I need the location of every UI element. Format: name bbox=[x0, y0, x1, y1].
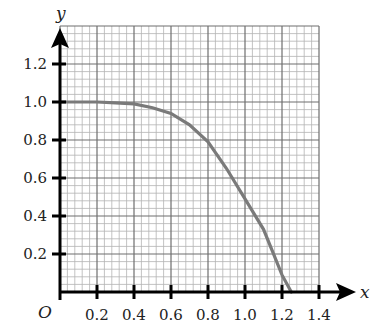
tick-labels: 0.20.40.60.81.01.21.40.20.40.60.81.01.2 bbox=[23, 55, 331, 324]
y-tick-label: 1.0 bbox=[23, 93, 47, 111]
y-tick-label: 0.2 bbox=[23, 245, 47, 263]
grid bbox=[60, 26, 319, 292]
x-tick-label: 1.0 bbox=[233, 306, 257, 324]
y-tick-label: 0.6 bbox=[23, 169, 47, 187]
origin-label: O bbox=[38, 302, 52, 322]
x-tick-label: 0.6 bbox=[159, 306, 183, 324]
y-tick-label: 0.8 bbox=[23, 131, 47, 149]
x-axis-label: x bbox=[360, 282, 370, 302]
x-tick-label: 0.2 bbox=[85, 306, 109, 324]
x-tick-label: 0.8 bbox=[196, 306, 220, 324]
y-tick-label: 1.2 bbox=[23, 55, 47, 73]
x-tick-label: 1.4 bbox=[307, 306, 331, 324]
y-tick-label: 0.4 bbox=[23, 207, 47, 225]
data-curve bbox=[60, 102, 291, 292]
chart: 0.20.40.60.81.01.21.40.20.40.60.81.01.2 … bbox=[0, 0, 381, 336]
x-tick-label: 0.4 bbox=[122, 306, 146, 324]
y-axis-label: y bbox=[55, 3, 66, 23]
x-tick-label: 1.2 bbox=[270, 306, 294, 324]
